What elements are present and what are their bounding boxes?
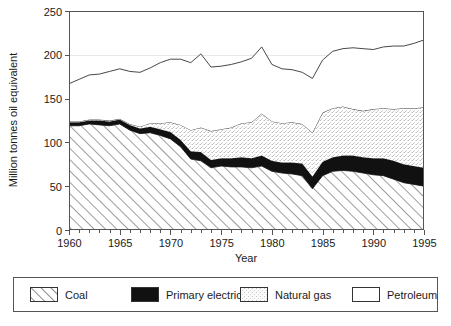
chart-legend: CoalPrimary electricityNatural gasPetrol… [14, 278, 438, 312]
y-tick-label-0: 0 [56, 225, 62, 237]
energy-consumption-chart-figure: 050100150200250 196019651970197519801985… [0, 0, 451, 326]
legend-item-natural-gas[interactable]: Natural gas [241, 288, 332, 302]
y-tick-label-50: 50 [50, 181, 62, 193]
y-tick-label-250: 250 [44, 6, 62, 18]
y-tick-label-150: 150 [44, 93, 62, 105]
legend-swatch-natural-gas-icon [241, 288, 268, 302]
plot-areas [69, 40, 424, 230]
legend-label-coal: Coal [65, 289, 88, 301]
x-axis-ticks: 19601965197019751980198519901995 [57, 230, 436, 249]
x-tick-label-1990: 1990 [362, 237, 386, 249]
y-axis-title: Million tonnes oil equivalent [7, 53, 19, 188]
legend-item-petroleum[interactable]: Petroleum [353, 288, 438, 302]
legend-swatch-coal-icon [31, 288, 58, 302]
y-tick-label-100: 100 [44, 137, 62, 149]
x-tick-label-1975: 1975 [209, 237, 233, 249]
legend-swatch-primary-electricity-icon [132, 288, 159, 302]
legend-swatch-petroleum-icon [353, 288, 380, 302]
x-tick-label-1985: 1985 [311, 237, 335, 249]
x-tick-label-1965: 1965 [108, 237, 132, 249]
x-tick-label-1960: 1960 [57, 237, 81, 249]
legend-label-natural-gas: Natural gas [275, 289, 332, 301]
chart-canvas: 050100150200250 196019651970197519801985… [0, 0, 451, 326]
x-tick-label-1980: 1980 [260, 237, 284, 249]
legend-label-petroleum: Petroleum [387, 289, 437, 301]
x-tick-label-1970: 1970 [159, 237, 183, 249]
y-tick-label-200: 200 [44, 49, 62, 61]
legend-item-primary-electricity[interactable]: Primary electricity [132, 288, 254, 302]
x-axis-title: Year [235, 252, 258, 264]
y-axis-ticks: 050100150200250 [44, 6, 69, 237]
x-tick-label-1995: 1995 [412, 237, 436, 249]
